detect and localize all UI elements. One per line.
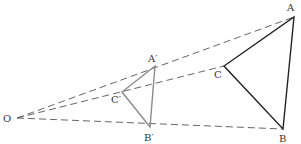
label-a-prime: A′ — [147, 53, 158, 64]
ray-o-to-c — [17, 66, 224, 118]
triangle-abc — [224, 17, 294, 129]
label-a: A — [286, 2, 295, 13]
label-o: O — [3, 113, 11, 124]
triangle-a-prime-b-prime-c-prime — [122, 66, 155, 127]
label-c-prime: C′ — [111, 94, 122, 105]
dilation-diagram: O A B C A′ B′ C′ — [0, 0, 301, 144]
label-c: C — [214, 69, 222, 80]
label-b-prime: B′ — [144, 132, 154, 143]
label-b: B — [279, 133, 286, 144]
diagram-canvas: O A B C A′ B′ C′ — [0, 0, 301, 144]
